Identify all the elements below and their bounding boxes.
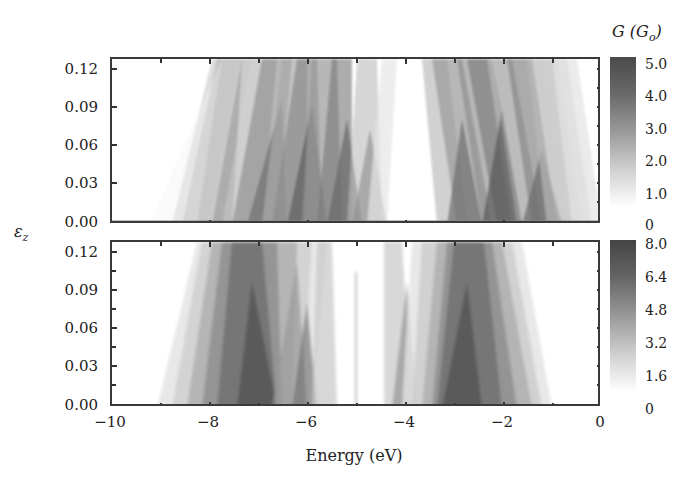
- x-axis-label: Energy (eV): [0, 446, 697, 465]
- ytick-bottom-0.00: 0.00: [38, 397, 98, 413]
- xtick--8: −8: [188, 414, 228, 430]
- ytick-bottom-0.06: 0.06: [38, 320, 98, 336]
- colorbar-title: G (Go): [612, 22, 662, 44]
- colorbar-bottom-label: 8.0: [645, 236, 667, 252]
- colorbar-bottom-label: 6.4: [645, 269, 667, 285]
- heatmap-panel-top: [110, 57, 600, 223]
- ytick-bottom-0.03: 0.03: [38, 358, 98, 374]
- colorbar-top: [610, 57, 636, 207]
- ytick-top-0.06: 0.06: [38, 137, 98, 153]
- colorbar-top-label: 1.0: [645, 186, 667, 202]
- xtick--10: −10: [90, 414, 130, 430]
- colorbar-top-label: 3.0: [645, 121, 667, 137]
- ytick-bottom-0.12: 0.12: [38, 244, 98, 260]
- xtick--6: −6: [286, 414, 326, 430]
- ytick-top-0.12: 0.12: [38, 61, 98, 77]
- heatmap-top-graphic: [112, 59, 600, 223]
- colorbar-bottom-label: 3.2: [645, 335, 667, 351]
- colorbar-top-label: 2.0: [645, 153, 667, 169]
- ytick-top-0.09: 0.09: [38, 99, 98, 115]
- ytick-bottom-0.09: 0.09: [38, 282, 98, 298]
- colorbar-bottom-label: 4.8: [645, 302, 667, 318]
- heatmap-panel-bottom: [110, 240, 600, 406]
- colorbar-top-label: 5.0: [645, 56, 667, 72]
- xtick-0: 0: [580, 414, 620, 430]
- xtick--2: −2: [482, 414, 522, 430]
- colorbar-bottom-label: 1.6: [645, 368, 667, 384]
- xtick--4: −4: [384, 414, 424, 430]
- colorbar-top-label: 4.0: [645, 88, 667, 104]
- colorbar-bottom-label: 0: [645, 401, 654, 417]
- ytick-top-0.03: 0.03: [38, 175, 98, 191]
- colorbar-bottom: [610, 240, 636, 392]
- y-axis-label: εz: [14, 222, 28, 244]
- heatmap-bottom-graphic: [112, 242, 600, 406]
- colorbar-top-label: 0: [645, 217, 654, 233]
- ytick-top-0.00: 0.00: [38, 214, 98, 230]
